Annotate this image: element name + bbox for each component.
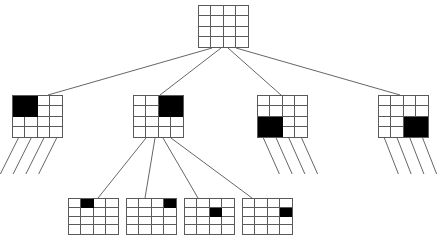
grid-cell-root-r2-c0[interactable]: [199, 27, 211, 37]
grid-cell-n2b-r1-c1[interactable]: [139, 208, 151, 217]
grid-cell-n2c-r0-c1[interactable]: [197, 199, 209, 208]
grid-cell-n4-r0-c0[interactable]: [379, 96, 391, 106]
grid-cell-n2d-r1-c3[interactable]: [280, 208, 292, 217]
grid-cell-n2c-r0-c3[interactable]: [222, 199, 234, 208]
grid-cell-root-r3-c1[interactable]: [211, 37, 223, 47]
grid-cell-n2d-r1-c2[interactable]: [268, 208, 280, 217]
grid-cell-n2d-r2-c0[interactable]: [243, 217, 255, 226]
grid-cell-n3-r3-c3[interactable]: [295, 127, 307, 137]
grid-cell-n2-r3-c2[interactable]: [159, 127, 171, 137]
grid-cell-n2b-r3-c2[interactable]: [152, 225, 164, 234]
grid-cell-n2-r3-c1[interactable]: [146, 127, 158, 137]
grid-cell-n2-r2-c1[interactable]: [146, 117, 158, 127]
grid-cell-n2d-r2-c1[interactable]: [255, 217, 267, 226]
grid-cell-n4-r2-c2[interactable]: [404, 117, 416, 127]
grid-cell-n2a-r2-c0[interactable]: [69, 217, 81, 226]
grid-cell-n2-r2-c2[interactable]: [159, 117, 171, 127]
grid-cell-n1-r3-c1[interactable]: [25, 127, 37, 137]
grid-cell-root-r1-c3[interactable]: [236, 16, 248, 26]
grid-cell-n4-r1-c2[interactable]: [404, 106, 416, 116]
grid-cell-n2d-r3-c2[interactable]: [268, 225, 280, 234]
grid-cell-n2b-r2-c0[interactable]: [127, 217, 139, 226]
grid-cell-n2c-r3-c3[interactable]: [222, 225, 234, 234]
grid-cell-n2c-r1-c1[interactable]: [197, 208, 209, 217]
grid-cell-n2-r1-c3[interactable]: [171, 106, 183, 116]
grid-cell-n2d-r3-c0[interactable]: [243, 225, 255, 234]
grid-cell-n2d-r2-c3[interactable]: [280, 217, 292, 226]
grid-cell-n3-r2-c0[interactable]: [258, 117, 270, 127]
grid-cell-n4-r0-c2[interactable]: [404, 96, 416, 106]
grid-cell-n2b-r0-c2[interactable]: [152, 199, 164, 208]
grid-cell-n2a-r2-c1[interactable]: [81, 217, 93, 226]
grid-cell-n2d-r0-c3[interactable]: [280, 199, 292, 208]
grid-cell-n2a-r3-c1[interactable]: [81, 225, 93, 234]
grid-cell-n2b-r2-c1[interactable]: [139, 217, 151, 226]
grid-cell-n2b-r3-c1[interactable]: [139, 225, 151, 234]
grid-cell-n2a-r0-c3[interactable]: [106, 199, 118, 208]
grid-cell-n2d-r0-c1[interactable]: [255, 199, 267, 208]
grid-node-n2c[interactable]: [184, 198, 235, 235]
grid-node-n2[interactable]: [133, 95, 184, 138]
grid-cell-n2b-r1-c3[interactable]: [164, 208, 176, 217]
grid-node-n4[interactable]: [378, 95, 429, 138]
grid-cell-n3-r0-c1[interactable]: [270, 96, 282, 106]
grid-cell-n2a-r3-c2[interactable]: [94, 225, 106, 234]
grid-cell-n2c-r2-c3[interactable]: [222, 217, 234, 226]
grid-cell-n3-r3-c0[interactable]: [258, 127, 270, 137]
grid-cell-root-r1-c1[interactable]: [211, 16, 223, 26]
grid-cell-n4-r1-c1[interactable]: [391, 106, 403, 116]
grid-cell-n3-r2-c3[interactable]: [295, 117, 307, 127]
grid-cell-root-r0-c1[interactable]: [211, 6, 223, 16]
grid-cell-n4-r1-c3[interactable]: [416, 106, 428, 116]
grid-cell-n4-r3-c0[interactable]: [379, 127, 391, 137]
grid-cell-n2c-r1-c0[interactable]: [185, 208, 197, 217]
grid-cell-n2b-r0-c0[interactable]: [127, 199, 139, 208]
grid-cell-root-r3-c3[interactable]: [236, 37, 248, 47]
grid-cell-root-r3-c0[interactable]: [199, 37, 211, 47]
grid-cell-n2b-r3-c0[interactable]: [127, 225, 139, 234]
grid-cell-n2a-r1-c3[interactable]: [106, 208, 118, 217]
grid-cell-n1-r1-c3[interactable]: [50, 106, 62, 116]
grid-cell-n3-r0-c3[interactable]: [295, 96, 307, 106]
grid-cell-root-r3-c2[interactable]: [224, 37, 236, 47]
grid-cell-n2b-r2-c2[interactable]: [152, 217, 164, 226]
grid-cell-n1-r2-c2[interactable]: [38, 117, 50, 127]
grid-cell-n2-r2-c0[interactable]: [134, 117, 146, 127]
grid-cell-n2b-r3-c3[interactable]: [164, 225, 176, 234]
grid-cell-n1-r2-c3[interactable]: [50, 117, 62, 127]
grid-cell-n2a-r0-c2[interactable]: [94, 199, 106, 208]
grid-cell-n3-r1-c3[interactable]: [295, 106, 307, 116]
grid-cell-n2c-r2-c0[interactable]: [185, 217, 197, 226]
grid-node-root[interactable]: [198, 5, 249, 48]
grid-cell-n1-r0-c1[interactable]: [25, 96, 37, 106]
grid-cell-n2d-r3-c1[interactable]: [255, 225, 267, 234]
grid-cell-n2c-r0-c0[interactable]: [185, 199, 197, 208]
grid-cell-n2-r0-c3[interactable]: [171, 96, 183, 106]
grid-node-n2d[interactable]: [242, 198, 293, 235]
grid-cell-n2c-r2-c1[interactable]: [197, 217, 209, 226]
grid-cell-root-r2-c1[interactable]: [211, 27, 223, 37]
grid-cell-n2d-r0-c0[interactable]: [243, 199, 255, 208]
grid-cell-root-r0-c0[interactable]: [199, 6, 211, 16]
grid-cell-n2d-r2-c2[interactable]: [268, 217, 280, 226]
grid-cell-n3-r2-c1[interactable]: [270, 117, 282, 127]
grid-cell-n2-r1-c2[interactable]: [159, 106, 171, 116]
grid-cell-root-r0-c2[interactable]: [224, 6, 236, 16]
grid-cell-n2d-r1-c0[interactable]: [243, 208, 255, 217]
grid-cell-n2c-r3-c2[interactable]: [210, 225, 222, 234]
grid-cell-n4-r0-c3[interactable]: [416, 96, 428, 106]
grid-cell-n2b-r0-c1[interactable]: [139, 199, 151, 208]
grid-cell-n2d-r3-c3[interactable]: [280, 225, 292, 234]
grid-cell-n4-r0-c1[interactable]: [391, 96, 403, 106]
grid-cell-n4-r2-c0[interactable]: [379, 117, 391, 127]
grid-cell-n3-r2-c2[interactable]: [283, 117, 295, 127]
grid-node-n1[interactable]: [12, 95, 63, 138]
grid-node-n2b[interactable]: [126, 198, 177, 235]
grid-cell-n2a-r1-c1[interactable]: [81, 208, 93, 217]
grid-cell-n1-r3-c0[interactable]: [13, 127, 25, 137]
grid-cell-n2-r1-c1[interactable]: [146, 106, 158, 116]
grid-cell-n2c-r3-c0[interactable]: [185, 225, 197, 234]
grid-cell-n2b-r1-c2[interactable]: [152, 208, 164, 217]
grid-cell-n2a-r1-c2[interactable]: [94, 208, 106, 217]
grid-cell-n4-r3-c3[interactable]: [416, 127, 428, 137]
